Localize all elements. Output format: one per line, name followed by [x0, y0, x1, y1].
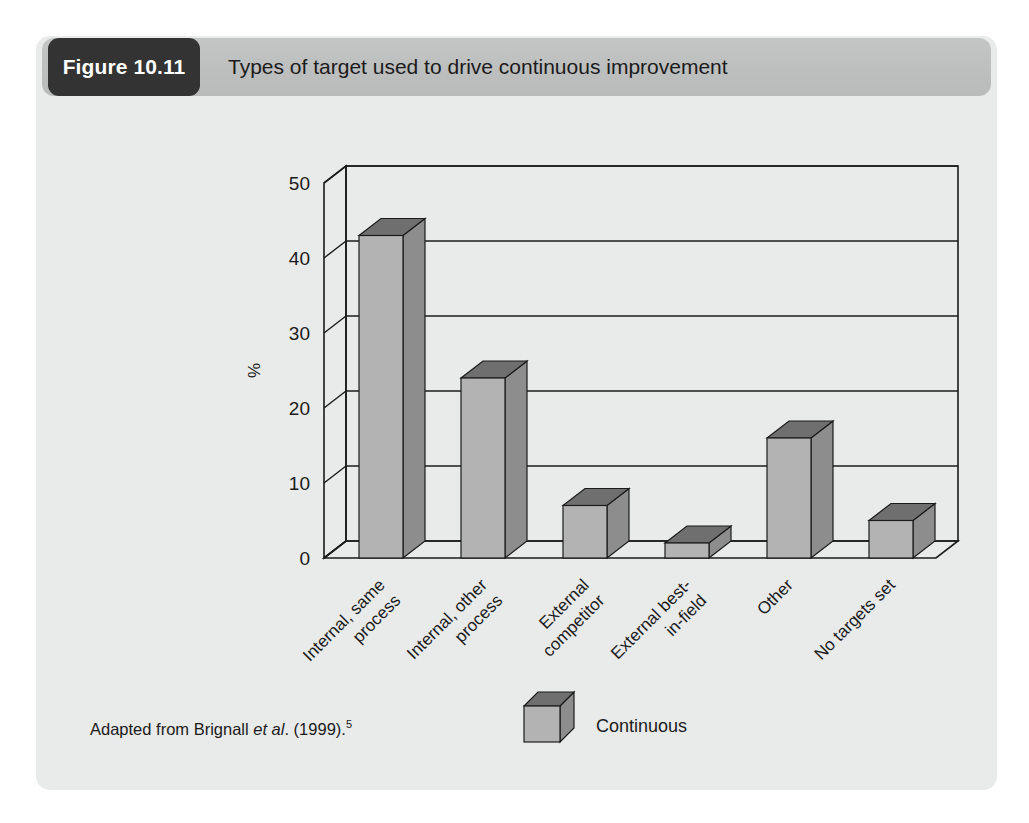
- y-axis-tick-label: 30: [289, 323, 310, 344]
- figure-header-band: Figure 10.11 Types of target used to dri…: [42, 38, 991, 96]
- x-axis-labels-group: No targets setOtherExternal best-in-fiel…: [299, 575, 899, 680]
- x-axis-label-2: Internal, otherprocess: [403, 575, 506, 678]
- y-axis-title-group: %: [245, 363, 264, 378]
- bar-front-face: [563, 506, 607, 559]
- x-axis-label-line: Other: [753, 575, 797, 619]
- bar-front-face: [767, 438, 811, 558]
- bar-side-face: [811, 421, 833, 558]
- x-axis-label-4: External best-in-field: [607, 575, 710, 678]
- y-tick-connector: [324, 241, 346, 258]
- legend-swatch-front: [524, 706, 560, 742]
- legend-series-label: Continuous: [596, 716, 687, 736]
- bar-front-face: [359, 236, 403, 559]
- y-axis-ticks-group: 01020304050: [289, 173, 310, 569]
- source-note: Adapted from Brignall et al. (1999).5: [90, 718, 352, 739]
- bar-front-face: [665, 543, 709, 558]
- bars-group: [359, 219, 935, 559]
- y-tick-connector: [324, 466, 346, 483]
- figure-title: Types of target used to drive continuous…: [228, 38, 728, 96]
- bar-front-face: [461, 378, 505, 558]
- figure-card: Figure 10.11 Types of target used to dri…: [36, 36, 997, 790]
- x-axis-label-5: Other: [753, 575, 797, 619]
- bar-side-face: [403, 219, 425, 559]
- bar-3: [563, 489, 629, 559]
- y-tick-connector: [324, 391, 346, 408]
- bar-4: [665, 526, 731, 558]
- bar-5: [767, 421, 833, 558]
- y-axis-tick-label: 10: [289, 473, 310, 494]
- chart-plot-area: 01020304050 % No targets setOtherExterna…: [36, 94, 997, 790]
- bar-chart-svg: 01020304050 % No targets setOtherExterna…: [36, 94, 997, 790]
- x-axis-label-3: Externalcompetitor: [523, 575, 608, 660]
- bar-6: [869, 504, 935, 559]
- left-wall: [324, 166, 346, 558]
- legend-swatch: [524, 692, 574, 742]
- y-axis-tick-label: 20: [289, 398, 310, 419]
- bar-1: [359, 219, 425, 559]
- y-tick-connector: [324, 316, 346, 333]
- x-axis-label-1: Internal, sameprocess: [299, 575, 404, 680]
- figure-number-label: Figure 10.11: [63, 55, 186, 79]
- x-axis-label-line: No targets set: [811, 575, 899, 663]
- y-axis-title: %: [245, 363, 264, 378]
- source-note-suffix: . (1999).: [284, 720, 345, 738]
- back-wall: [346, 166, 958, 541]
- y-axis-tick-label: 50: [289, 173, 310, 194]
- source-note-italic: et al: [253, 720, 284, 738]
- bar-2: [461, 361, 527, 558]
- y-axis-tick-label: 40: [289, 248, 310, 269]
- x-axis-label-6: No targets set: [811, 575, 899, 663]
- source-note-prefix: Adapted from Brignall: [90, 720, 253, 738]
- bar-front-face: [869, 521, 913, 559]
- y-axis-tick-label: 0: [299, 548, 310, 569]
- figure-number-badge: Figure 10.11: [48, 38, 200, 96]
- source-note-superscript: 5: [346, 718, 352, 730]
- bar-side-face: [505, 361, 527, 558]
- legend-group: Continuous: [524, 692, 687, 742]
